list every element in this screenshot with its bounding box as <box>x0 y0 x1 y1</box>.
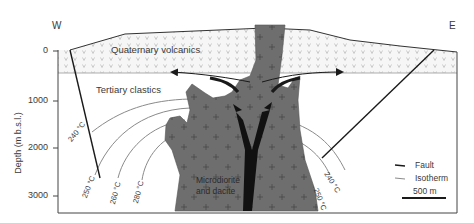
legend-fault-label: Fault <box>415 160 434 170</box>
east-label: E <box>449 20 456 31</box>
scale-bar-label: 500 m <box>413 186 437 196</box>
tick-label-2000: 2000 <box>28 142 48 152</box>
unit-label-quaternary: Quaternary volcanics <box>111 44 200 55</box>
legend-isotherm-label: Isotherm <box>415 173 448 183</box>
depth-axis <box>53 51 58 196</box>
unit-label-intrusion-2: and dacite <box>196 186 235 196</box>
tick-label-3000: 3000 <box>28 190 48 200</box>
tick-label-0: 0 <box>43 45 48 55</box>
unit-label-tertiary: Tertiary clastics <box>96 84 161 95</box>
legend-fault-swatch <box>395 165 405 166</box>
legend-isotherm-swatch <box>395 178 405 179</box>
geothermal-cross-section: W E 0 1000 2000 3000 Depth (m b.s.l.) Qu… <box>0 0 474 223</box>
unit-label-intrusion-1: Microdiorite <box>196 175 240 185</box>
west-label: W <box>52 20 61 31</box>
tick-label-1000: 1000 <box>28 95 48 105</box>
y-axis-label: Depth (m b.s.l.) <box>13 103 23 183</box>
